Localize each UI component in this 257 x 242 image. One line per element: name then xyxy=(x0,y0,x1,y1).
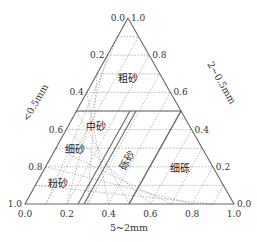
region-label: 细砾 xyxy=(170,162,190,174)
left-axis-title: <0.5mm xyxy=(20,82,50,123)
bottom-tick-label: 0.2 xyxy=(60,209,74,219)
region-label: 粉砂 xyxy=(48,177,68,189)
bottom-tick-label: 0.4 xyxy=(101,209,116,219)
bottom-axis-title: 5~2mm xyxy=(110,222,148,233)
left-tick-label: 0.8 xyxy=(28,162,43,172)
right-axis-title: 2~0.5mm xyxy=(205,60,238,106)
left-tick-label: 1.0 xyxy=(8,199,23,209)
right-tick-label: 0.0 xyxy=(237,199,252,209)
right-tick-label: 0.4 xyxy=(195,125,210,135)
region-label: 粗砂 xyxy=(118,72,138,84)
region-label: 砾砂 xyxy=(116,148,136,171)
grid-line xyxy=(213,185,223,204)
region-label: 细砂 xyxy=(65,143,85,155)
left-tick-label: 0.6 xyxy=(49,125,64,135)
bottom-tick-label: 0.0 xyxy=(18,209,33,219)
grid-line xyxy=(171,148,202,204)
boundary-line xyxy=(129,111,181,204)
right-tick-label: 1.0 xyxy=(131,13,146,23)
bottom-tick-label: 0.6 xyxy=(143,209,158,219)
right-tick-label: 0.6 xyxy=(173,87,188,97)
right-tick-label: 0.8 xyxy=(152,50,167,60)
bottom-tick-label: 0.8 xyxy=(185,209,200,219)
left-tick-label: 0.4 xyxy=(69,87,84,97)
tick-labels: 0.00.20.40.60.81.01.00.80.60.40.20.00.00… xyxy=(8,13,252,219)
grid-line xyxy=(88,74,160,204)
bottom-tick-label: 1.0 xyxy=(227,209,242,219)
right-tick-label: 0.2 xyxy=(216,162,230,172)
region-label: 中砂 xyxy=(86,120,106,132)
left-tick-label: 0.2 xyxy=(90,50,104,60)
left-tick-label: 0.0 xyxy=(111,13,126,23)
ternary-diagram: 0.00.20.40.60.81.01.00.80.60.40.20.00.00… xyxy=(0,0,257,242)
